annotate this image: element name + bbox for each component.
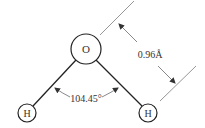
extension-line-top [100, 1, 134, 35]
atom-hydrogen-right-label: H [144, 108, 151, 119]
bond-angle-label: 104.45° [70, 93, 102, 104]
bond-length-arrow-bottom [158, 66, 175, 83]
extension-line-bottom [160, 66, 196, 101]
atom-hydrogen-left-label: H [23, 108, 30, 119]
bond-length-label: 0.96Å [138, 49, 164, 60]
bond-length-arrow-top [119, 24, 137, 42]
angle-arc-right [102, 88, 118, 97]
angle-arc-left [55, 88, 70, 97]
atom-hydrogen-right: H [139, 104, 157, 122]
atom-oxygen: O [71, 34, 101, 64]
water-molecule-diagram: O H H 104.45° 0.96Å [0, 0, 205, 128]
bond-o-h-right [96, 60, 142, 106]
atom-oxygen-label: O [82, 43, 90, 55]
atom-hydrogen-left: H [18, 104, 36, 122]
